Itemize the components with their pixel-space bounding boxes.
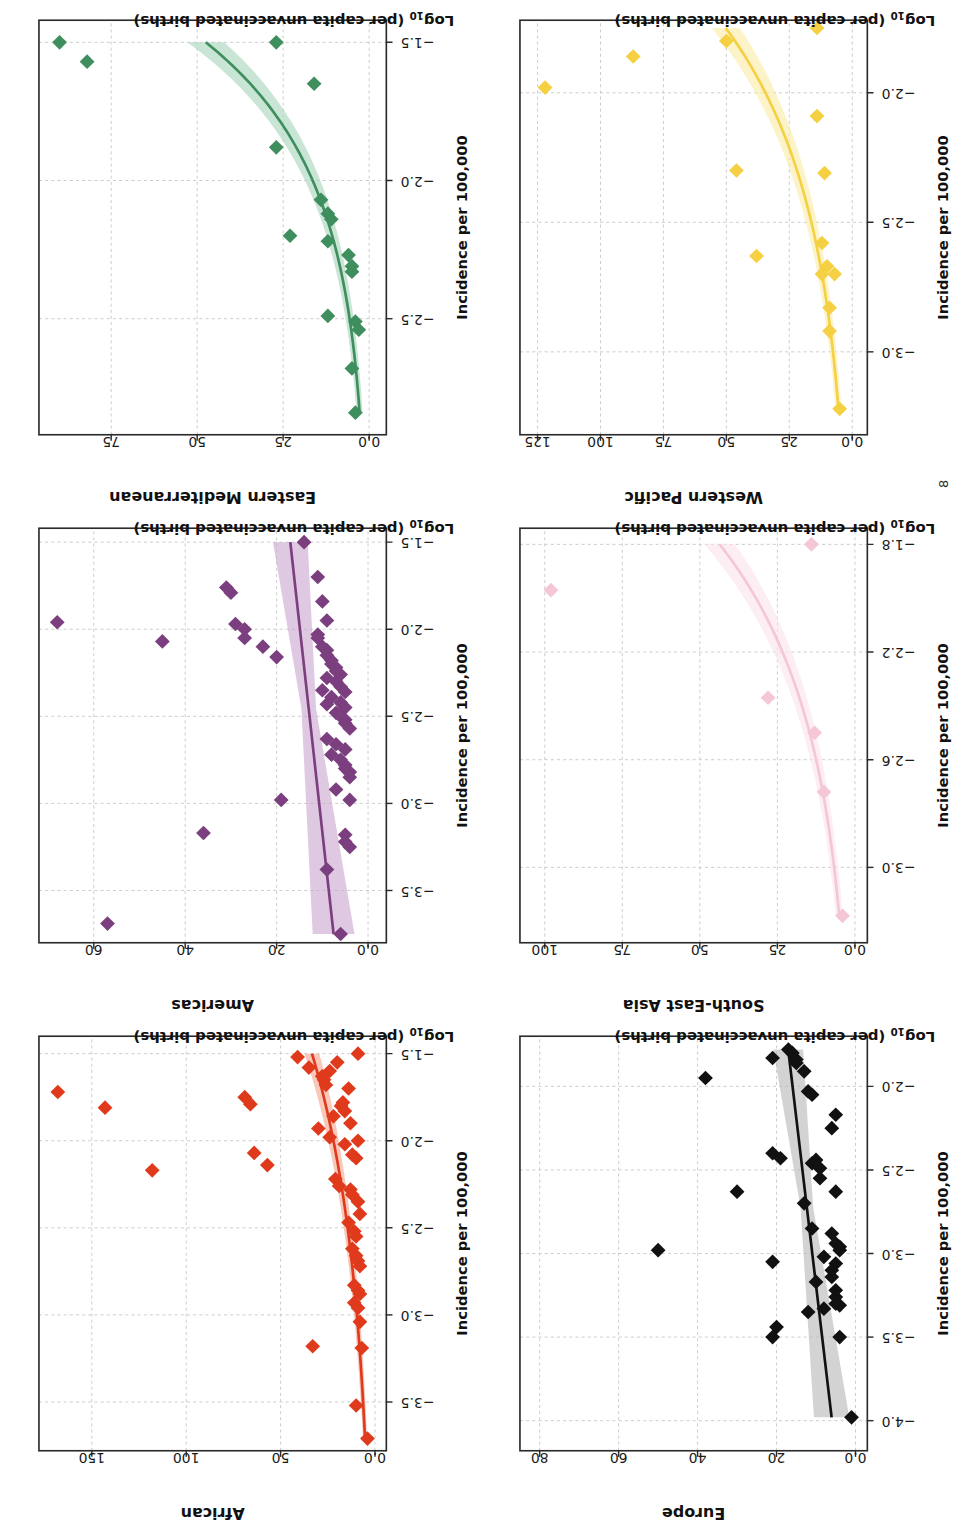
svg-text:100: 100 <box>532 942 558 958</box>
svg-text:−2.0: −2.0 <box>401 622 435 638</box>
svg-text:20: 20 <box>768 1450 786 1466</box>
svg-text:150: 150 <box>79 1450 105 1466</box>
svg-text:−1.5: −1.5 <box>401 1047 435 1063</box>
svg-text:−3.0: −3.0 <box>882 345 916 361</box>
svg-text:Americas: Americas <box>171 996 254 1015</box>
svg-text:25: 25 <box>780 434 798 450</box>
panel-grid: African−3.5−3.0−2.5−2.0−1.50.050100150Lo… <box>0 0 968 1534</box>
svg-text:75: 75 <box>102 434 120 450</box>
svg-text:Log10 (per capita unvaccinated: Log10 (per capita unvaccinated births) <box>614 1026 935 1046</box>
svg-text:Log10 (per capita unvaccinated: Log10 (per capita unvaccinated births) <box>133 1026 454 1046</box>
svg-text:Log10 (per capita unvaccinated: Log10 (per capita unvaccinated births) <box>614 518 935 538</box>
svg-text:Incidence per 100,000: Incidence per 100,000 <box>933 643 950 827</box>
svg-text:−2.2: −2.2 <box>882 645 916 661</box>
svg-text:50: 50 <box>272 1450 290 1466</box>
svg-text:−2.5: −2.5 <box>401 709 435 725</box>
svg-text:−3.0: −3.0 <box>882 860 916 876</box>
svg-text:−2.0: −2.0 <box>401 1134 435 1150</box>
figure-page: African−3.5−3.0−2.5−2.0−1.50.050100150Lo… <box>0 0 968 1534</box>
svg-text:100: 100 <box>587 434 613 450</box>
svg-text:50: 50 <box>188 434 206 450</box>
svg-text:−1.8: −1.8 <box>882 537 916 553</box>
svg-text:25: 25 <box>274 434 292 450</box>
svg-text:−2.6: −2.6 <box>882 753 916 769</box>
svg-text:25: 25 <box>769 942 787 958</box>
svg-text:−1.5: −1.5 <box>401 35 435 51</box>
svg-text:80: 80 <box>531 1450 549 1466</box>
page-number: 8 <box>936 480 951 488</box>
svg-text:20: 20 <box>268 942 286 958</box>
svg-text:Incidence per 100,000: Incidence per 100,000 <box>452 1151 469 1335</box>
panel-europe: Europe−4.0−3.5−3.0−2.5−2.00.020406080Log… <box>485 1022 966 1530</box>
svg-text:Incidence per 100,000: Incidence per 100,000 <box>452 643 469 827</box>
svg-text:50: 50 <box>718 434 736 450</box>
svg-text:0.0: 0.0 <box>357 942 379 958</box>
svg-text:Europe: Europe <box>662 1504 725 1523</box>
svg-text:Eastern Mediterranean: Eastern Mediterranean <box>109 488 316 507</box>
svg-text:−3.0: −3.0 <box>882 1247 916 1263</box>
panel-african: African−3.5−3.0−2.5−2.0−1.50.050100150Lo… <box>4 1022 485 1530</box>
svg-text:0.0: 0.0 <box>844 942 866 958</box>
svg-text:−3.0: −3.0 <box>401 1308 435 1324</box>
svg-text:Log10 (per capita unvaccinated: Log10 (per capita unvaccinated births) <box>614 10 935 30</box>
svg-text:Incidence per 100,000: Incidence per 100,000 <box>933 1151 950 1335</box>
svg-text:75: 75 <box>655 434 673 450</box>
svg-text:125: 125 <box>524 434 550 450</box>
svg-text:40: 40 <box>176 942 194 958</box>
svg-text:50: 50 <box>691 942 709 958</box>
svg-text:Log10 (per capita unvaccinated: Log10 (per capita unvaccinated births) <box>133 10 454 30</box>
svg-text:−2.5: −2.5 <box>401 312 435 328</box>
svg-text:−2.0: −2.0 <box>401 174 435 190</box>
svg-text:−3.5: −3.5 <box>882 1330 916 1346</box>
panel-eastern-mediterranean: Eastern Mediterranean−2.5−2.0−1.50.02550… <box>4 6 485 514</box>
svg-text:0.0: 0.0 <box>841 434 863 450</box>
svg-text:−4.0: −4.0 <box>882 1414 916 1430</box>
panel-western-pacific: Western Pacific−3.0−2.5−2.00.02550751001… <box>485 6 966 514</box>
svg-text:African: African <box>181 1504 245 1523</box>
svg-text:0.0: 0.0 <box>358 434 380 450</box>
svg-text:100: 100 <box>173 1450 199 1466</box>
svg-text:−3.0: −3.0 <box>401 796 435 812</box>
svg-text:60: 60 <box>610 1450 628 1466</box>
svg-text:0.0: 0.0 <box>844 1450 866 1466</box>
panel-south-east-asia: South-East Asia−3.0−2.6−2.2−1.80.0255075… <box>485 514 966 1022</box>
svg-text:75: 75 <box>613 942 631 958</box>
svg-text:Western Pacific: Western Pacific <box>624 488 763 507</box>
svg-text:−2.5: −2.5 <box>401 1221 435 1237</box>
svg-text:Incidence per 100,000: Incidence per 100,000 <box>452 135 469 319</box>
svg-text:60: 60 <box>85 942 103 958</box>
svg-text:South-East Asia: South-East Asia <box>623 996 765 1015</box>
figure-canvas: African−3.5−3.0−2.5−2.0−1.50.050100150Lo… <box>0 0 968 1534</box>
svg-text:−2.0: −2.0 <box>882 1079 916 1095</box>
svg-text:40: 40 <box>689 1450 707 1466</box>
svg-text:0.0: 0.0 <box>364 1450 386 1466</box>
svg-text:−3.5: −3.5 <box>401 884 435 900</box>
svg-text:Log10 (per capita unvaccinated: Log10 (per capita unvaccinated births) <box>133 518 454 538</box>
svg-text:Incidence per 100,000: Incidence per 100,000 <box>933 135 950 319</box>
svg-text:−2.0: −2.0 <box>882 86 916 102</box>
svg-text:−3.5: −3.5 <box>401 1395 435 1411</box>
svg-text:−2.5: −2.5 <box>882 1163 916 1179</box>
svg-text:−2.5: −2.5 <box>882 215 916 231</box>
panel-americas: Americas−3.5−3.0−2.5−2.0−1.50.0204060Log… <box>4 514 485 1022</box>
